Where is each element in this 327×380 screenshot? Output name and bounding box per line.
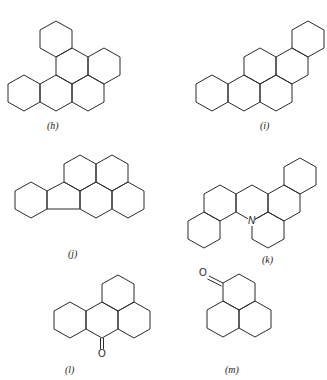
ring-bonds <box>8 21 324 338</box>
label-k: (k) <box>262 254 273 265</box>
ring-i-2 <box>276 48 308 84</box>
ring-j-3 <box>112 182 144 218</box>
ring-h-1 <box>56 48 88 84</box>
oxygen-atom-l: O <box>98 349 106 359</box>
ring-h-4 <box>40 75 72 111</box>
ring-j-1 <box>96 155 128 191</box>
ring-k-0 <box>284 158 316 194</box>
ring-j-0 <box>64 155 96 191</box>
extra-bonds <box>47 182 223 349</box>
ring-k-4 <box>188 212 220 248</box>
ring-m-2 <box>239 301 271 337</box>
ring-l-1 <box>54 302 86 338</box>
ring-h-0 <box>40 21 72 57</box>
ring-m-0 <box>223 274 255 310</box>
ring-i-3 <box>196 75 228 111</box>
ring-j-2 <box>80 182 112 218</box>
ring-k-3 <box>268 185 300 221</box>
ring-h-5 <box>72 75 104 111</box>
carbonyl-bond-m-2 <box>208 279 222 286</box>
ring-h-2 <box>88 48 120 84</box>
ring-i-0 <box>292 21 324 57</box>
label-j: (j) <box>68 248 77 259</box>
ring-m-1 <box>207 301 239 337</box>
ring-l-0 <box>102 275 134 311</box>
label-i: (i) <box>260 120 269 131</box>
ring-j-4 <box>15 182 47 218</box>
ring-h-3 <box>8 75 40 111</box>
ring-l-3 <box>118 302 150 338</box>
label-m: (m) <box>225 364 239 375</box>
ring-k-1 <box>204 185 236 221</box>
carbonyl-bond-m-1 <box>209 276 223 283</box>
chemical-structures-diagram <box>0 0 327 380</box>
nitrogen-atom-k: N <box>248 216 255 226</box>
ring-i-5 <box>260 75 292 111</box>
five-membered-ring-j <box>47 182 80 209</box>
ring-k-5 <box>252 212 284 248</box>
ring-i-4 <box>228 75 260 111</box>
label-l: (l) <box>65 364 74 375</box>
ring-i-1 <box>244 48 276 84</box>
oxygen-atom-m: O <box>199 268 207 278</box>
label-h: (h) <box>47 120 59 131</box>
ring-l-2 <box>86 302 118 338</box>
